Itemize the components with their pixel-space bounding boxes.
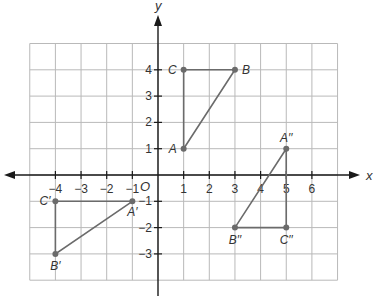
origin-label: O (140, 179, 150, 194)
point-label: B (242, 63, 250, 77)
point-marker (232, 225, 238, 231)
x-tick-label: 3 (232, 182, 239, 196)
point-marker (232, 67, 238, 73)
point-label: A′ (126, 205, 138, 219)
point-marker (129, 198, 135, 204)
triangle: ABC (168, 63, 250, 156)
y-tick-label: 2 (145, 115, 152, 129)
x-axis-label: x (365, 168, 373, 183)
x-tick-label: −4 (49, 182, 63, 196)
coordinate-plane: x y O −4−3−2−11234564321−1−2−3 ABCA′B′C′… (0, 0, 373, 296)
y-axis-label: y (154, 0, 163, 13)
point-marker (52, 198, 58, 204)
point-label: C (168, 63, 177, 77)
y-tick-label: 4 (145, 63, 152, 77)
point-marker (283, 225, 289, 231)
y-tick-label: −3 (138, 247, 152, 261)
y-tick-label: 3 (145, 89, 152, 103)
y-axis-up-arrow-icon (154, 15, 162, 26)
point-label: C′ (39, 194, 51, 208)
x-tick-label: 1 (180, 182, 187, 196)
point-marker (181, 67, 187, 73)
point-label: A′′ (279, 131, 293, 145)
figures: ABCA′B′C′A′′B′′C′′ (39, 63, 293, 273)
x-tick-label: 6 (309, 182, 316, 196)
x-tick-label: 2 (206, 182, 213, 196)
y-tick-label: −2 (138, 221, 152, 235)
point-marker (283, 146, 289, 152)
point-label: A (168, 142, 177, 156)
x-tick-label: −3 (74, 182, 88, 196)
x-axis-right-arrow-icon (349, 171, 360, 179)
x-axis-left-arrow-icon (4, 171, 15, 179)
point-marker (52, 251, 58, 257)
triangle: A′B′C′ (39, 194, 138, 273)
point-label: B′ (50, 259, 61, 273)
y-tick-label: −1 (138, 194, 152, 208)
point-label: C′′ (280, 233, 294, 247)
point-label: B′′ (229, 233, 242, 247)
y-tick-label: 1 (145, 142, 152, 156)
x-tick-label: −2 (100, 182, 114, 196)
point-marker (181, 146, 187, 152)
